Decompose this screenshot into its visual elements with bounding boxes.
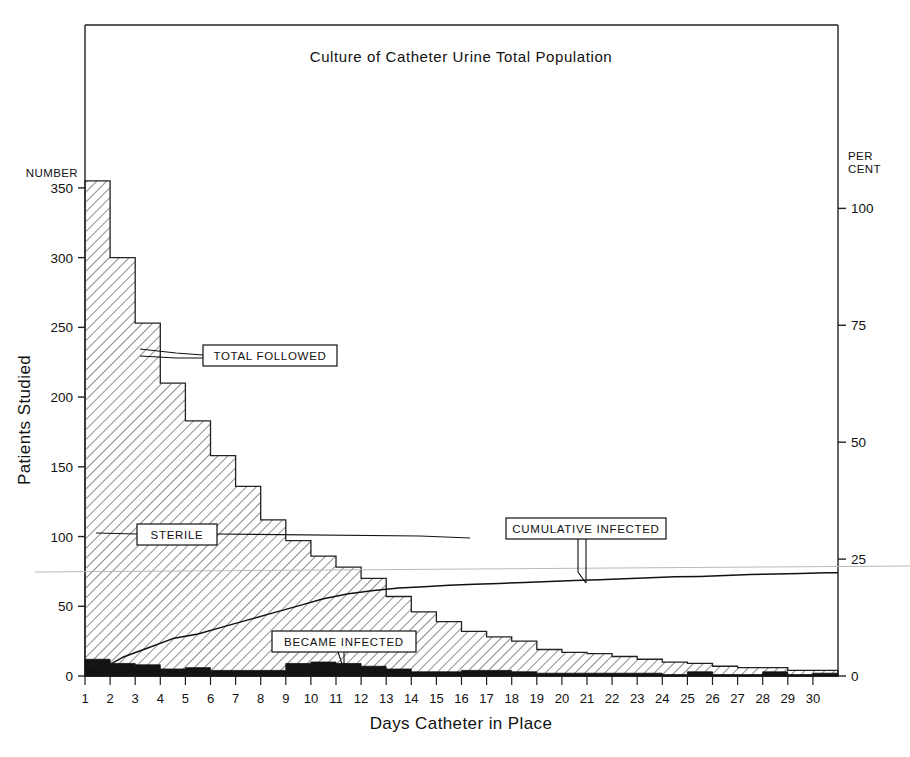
x-tick-label: 23: [630, 691, 644, 706]
x-tick-label: 21: [580, 691, 594, 706]
x-tick-label: 11: [329, 691, 343, 706]
x-tick-label: 22: [605, 691, 619, 706]
left-tick-label: 100: [50, 530, 73, 545]
x-tick-label: 27: [730, 691, 744, 706]
x-tick-label: 30: [806, 691, 820, 706]
x-tick-label: 10: [304, 691, 318, 706]
x-tick-label: 3: [132, 691, 139, 706]
total-followed-bars: [85, 181, 838, 676]
x-axis-ticks: 1234567891011121314151617181920212223242…: [81, 676, 820, 706]
right-tick-label: 50: [851, 435, 866, 450]
x-tick-label: 25: [680, 691, 694, 706]
x-tick-label: 26: [705, 691, 719, 706]
x-tick-label: 17: [479, 691, 493, 706]
callout-cumulative-infected: CUMULATIVE INFECTED: [506, 518, 666, 539]
x-tick-label: 12: [354, 691, 368, 706]
x-tick-label: 9: [282, 691, 289, 706]
left-tick-label: 200: [50, 390, 73, 405]
right-axis-caption-line2: CENT: [848, 163, 881, 175]
left-axis-caption: NUMBER: [26, 167, 78, 179]
right-tick-label: 100: [851, 201, 874, 216]
callout-total-followed: TOTAL FOLLOWED: [203, 345, 337, 366]
figure-root: Culture of Catheter Urine Total Populati…: [0, 0, 910, 757]
right-tick-label: 25: [851, 552, 866, 567]
x-tick-label: 29: [781, 691, 795, 706]
x-tick-label: 15: [429, 691, 443, 706]
x-tick-label: 5: [182, 691, 189, 706]
x-tick-label: 24: [655, 691, 669, 706]
left-tick-label: 0: [65, 669, 73, 684]
x-tick-label: 20: [555, 691, 569, 706]
x-tick-label: 18: [504, 691, 518, 706]
left-tick-label: 300: [50, 251, 73, 266]
x-tick-label: 7: [232, 691, 239, 706]
x-tick-label: 1: [81, 691, 88, 706]
left-tick-label: 50: [58, 599, 73, 614]
callout-sterile-label: STERILE: [151, 529, 204, 541]
right-axis-caption-line1: PER: [848, 150, 873, 162]
x-tick-label: 4: [157, 691, 164, 706]
callout-total-followed-label: TOTAL FOLLOWED: [213, 350, 326, 362]
x-tick-label: 6: [207, 691, 214, 706]
x-tick-label: 2: [106, 691, 113, 706]
x-tick-label: 19: [530, 691, 544, 706]
right-axis-ticks: 0255075100: [838, 201, 874, 684]
x-tick-label: 28: [755, 691, 769, 706]
left-tick-label: 350: [50, 181, 73, 196]
x-axis-title: Days Catheter in Place: [370, 714, 553, 733]
chart-title: Culture of Catheter Urine Total Populati…: [310, 48, 613, 65]
x-tick-label: 13: [379, 691, 393, 706]
chart-canvas: Culture of Catheter Urine Total Populati…: [0, 0, 910, 757]
left-axis-ticks: 050100150200250300350: [50, 181, 85, 684]
callout-cumulative-infected-label: CUMULATIVE INFECTED: [512, 523, 659, 535]
x-tick-label: 8: [257, 691, 264, 706]
right-tick-label: 75: [851, 318, 866, 333]
callout-became-infected-label: BECAME INFECTED: [284, 636, 404, 648]
left-axis-title: Patients Studied: [15, 355, 34, 485]
left-tick-label: 150: [50, 460, 73, 475]
callout-became-infected: BECAME INFECTED: [272, 631, 416, 652]
right-tick-label: 0: [851, 669, 859, 684]
x-tick-label: 16: [454, 691, 468, 706]
left-tick-label: 250: [50, 320, 73, 335]
callout-sterile: STERILE: [137, 524, 217, 545]
x-tick-label: 14: [404, 691, 418, 706]
